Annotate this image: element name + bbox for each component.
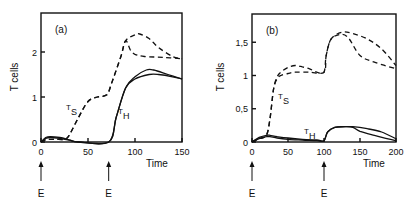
arrow-up-icon bbox=[322, 161, 327, 167]
panel-a-th-label: TH bbox=[118, 107, 129, 121]
x-tick-label: 150 bbox=[352, 147, 367, 157]
x-tick-label: 50 bbox=[83, 147, 93, 157]
series-line bbox=[41, 34, 182, 142]
panel-b-label: (b) bbox=[266, 25, 278, 36]
figure: (a) T cells Time 012050100150 TS TH EE (… bbox=[0, 0, 415, 205]
x-tick-label: 0 bbox=[38, 147, 43, 157]
panel-b-event-arrows: EE bbox=[249, 161, 328, 199]
y-tick-label: 2 bbox=[32, 48, 37, 58]
panel-b-series bbox=[252, 32, 396, 142]
arrow-up-icon bbox=[39, 161, 44, 167]
x-tick-label: 0 bbox=[249, 147, 254, 157]
panel-a-series bbox=[41, 34, 182, 144]
panel-b-ylabel: T cells bbox=[215, 63, 226, 92]
panel-b: (b) T cells Time 00,511,5050100150200 TS… bbox=[215, 14, 404, 199]
y-tick-label: 1,5 bbox=[235, 38, 248, 48]
y-tick-label: 0,5 bbox=[235, 104, 248, 114]
x-tick-label: 100 bbox=[316, 147, 331, 157]
arrow-up-icon bbox=[250, 161, 255, 167]
arrow-up-icon bbox=[106, 161, 111, 167]
panel-b-ticks: 00,511,5050100150200 bbox=[235, 38, 403, 157]
panel-a-label: (a) bbox=[55, 24, 67, 35]
y-tick-label: 1 bbox=[243, 71, 248, 81]
event-label: E bbox=[38, 188, 45, 199]
panel-a-ts-label: TS bbox=[66, 103, 77, 117]
series-line bbox=[252, 32, 396, 142]
x-tick-label: 200 bbox=[388, 147, 403, 157]
x-tick-label: 50 bbox=[283, 147, 293, 157]
panel-a-xlabel: Time bbox=[146, 158, 168, 169]
x-tick-label: 150 bbox=[174, 147, 189, 157]
series-line bbox=[252, 34, 396, 142]
panel-b-xlabel: Time bbox=[363, 158, 385, 169]
series-line bbox=[41, 41, 182, 142]
panel-a-event-arrows: EE bbox=[38, 161, 113, 199]
panel-b-ts-label: TS bbox=[278, 92, 289, 106]
panel-a: (a) T cells Time 012050100150 TS TH EE bbox=[9, 13, 190, 199]
event-label: E bbox=[249, 188, 256, 199]
panel-a-ylabel: T cells bbox=[9, 63, 20, 92]
y-tick-label: 0 bbox=[243, 138, 248, 148]
series-line bbox=[41, 69, 182, 144]
event-label: E bbox=[321, 188, 328, 199]
series-line bbox=[252, 127, 396, 142]
event-label: E bbox=[105, 188, 112, 199]
y-tick-label: 0 bbox=[32, 138, 37, 148]
x-tick-label: 100 bbox=[127, 147, 142, 157]
y-tick-label: 1 bbox=[32, 93, 37, 103]
series-line bbox=[41, 74, 182, 144]
